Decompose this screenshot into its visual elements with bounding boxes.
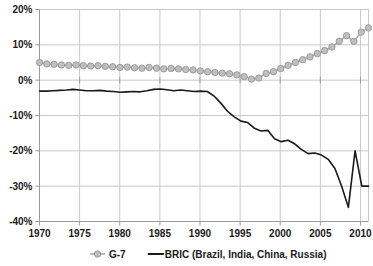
data-point-marker [314,50,320,56]
data-point-marker [278,65,284,71]
legend-label: BRIC (Brazil, India, China, Russia) [165,249,327,260]
data-point-marker [212,69,218,75]
data-point-marker [102,63,108,69]
y-axis-tick-label: 0% [18,75,33,86]
data-point-marker [234,72,240,78]
chart-background [0,0,373,266]
data-point-marker [87,63,93,69]
x-axis-tick-label: 1985 [149,228,172,239]
data-point-marker [241,73,247,79]
y-axis-tick-label: -40% [9,216,32,227]
data-point-marker [58,62,64,68]
y-axis-tick-label: 10% [12,39,32,50]
x-axis-tick-label: 1995 [229,228,252,239]
chart-container: 20%10%0%-10%-20%-30%-40% 197019751980198… [0,0,373,266]
data-point-marker [270,68,276,74]
data-point-marker [358,29,364,35]
data-point-marker [36,59,42,65]
data-point-marker [219,70,225,76]
x-axis-tick-label: 1980 [109,228,132,239]
data-point-marker [197,68,203,74]
x-axis-tick-label: 2005 [309,228,332,239]
y-axis-tick-label: -20% [9,145,32,156]
y-axis-tick-label: -30% [9,181,32,192]
data-point-marker [183,66,189,72]
chart-legend: G-7BRIC (Brazil, India, China, Russia) [90,249,327,260]
x-axis-tick-label: 1970 [28,228,51,239]
y-axis-tick-label: 20% [12,4,32,15]
data-point-marker [190,67,196,73]
data-point-marker [256,75,262,81]
data-point-marker [336,38,342,44]
data-point-marker [131,65,137,71]
x-axis-tick-label: 1990 [189,228,212,239]
x-axis-tick-label: 1975 [68,228,91,239]
line-chart: 20%10%0%-10%-20%-30%-40% 197019751980198… [0,0,373,266]
x-axis-tick-label: 2010 [349,228,372,239]
data-point-marker [66,62,72,68]
data-point-marker [168,65,174,71]
data-point-marker [248,76,254,82]
data-point-marker [365,25,371,31]
legend-marker-icon [94,251,100,257]
data-point-marker [263,70,269,76]
data-point-marker [285,62,291,68]
data-point-marker [204,68,210,74]
data-point-marker [80,62,86,68]
data-point-marker [51,61,57,67]
data-point-marker [146,64,152,70]
data-point-marker [292,59,298,65]
data-point-marker [226,71,232,77]
data-point-marker [95,62,101,68]
data-point-marker [124,64,130,70]
data-point-marker [153,65,159,71]
data-point-marker [73,62,79,68]
data-point-marker [321,47,327,53]
x-axis-tick-label: 2000 [269,228,292,239]
data-point-marker [109,64,115,70]
data-point-marker [161,66,167,72]
data-point-marker [329,44,335,50]
legend-label: G-7 [109,249,126,260]
data-point-marker [44,61,50,67]
y-axis-tick-label: -10% [9,110,32,121]
data-point-marker [175,66,181,72]
x-axis-labels: 197019751980198519901995200020052010 [28,228,372,239]
data-point-marker [351,38,357,44]
data-point-marker [117,64,123,70]
data-point-marker [307,54,313,60]
legend-item-bric[interactable]: BRIC (Brazil, India, China, Russia) [148,249,327,260]
data-point-marker [343,32,349,38]
data-point-marker [300,56,306,62]
data-point-marker [139,65,145,71]
